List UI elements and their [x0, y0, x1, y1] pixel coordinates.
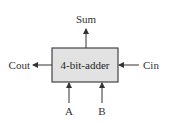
- cout-label: Cout: [9, 59, 30, 71]
- adder-block-label: 4-bit-adder: [61, 59, 110, 71]
- b-label: B: [98, 105, 105, 117]
- a-port: A: [65, 83, 73, 117]
- b-port: B: [98, 83, 105, 117]
- cin-port: Cin: [119, 59, 159, 71]
- adder-block: 4-bit-adder: [52, 48, 118, 82]
- sum-port: Sum: [76, 13, 97, 48]
- cin-label: Cin: [143, 59, 159, 71]
- sum-label: Sum: [76, 13, 97, 25]
- a-label: A: [65, 105, 73, 117]
- cout-port: Cout: [9, 59, 52, 71]
- adder-diagram: 4-bit-adder Sum Cout Cin A B: [0, 0, 169, 124]
